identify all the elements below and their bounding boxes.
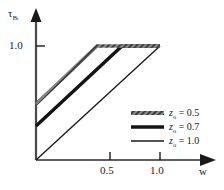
y-axis-label-subscript2: i — [17, 16, 18, 21]
y-tick-label-1-0: 1.0 — [9, 40, 23, 51]
legend-value-z0-7: = 0.7 — [179, 121, 200, 132]
plot-canvas — [0, 0, 224, 190]
series-line-z0-5 — [36, 46, 160, 104]
legend-swatch-thick-black — [131, 121, 164, 133]
legend-label-z0-5: zo = 0.5 — [169, 107, 199, 120]
y-axis-arrowhead — [31, 8, 42, 22]
legend-item-z1-0: zo = 1.0 — [131, 134, 223, 148]
legend-swatch-thin-black — [131, 135, 164, 147]
legend-value-z1-0: = 1.0 — [179, 135, 200, 146]
legend-label-z0-7: zo = 0.7 — [169, 121, 199, 134]
x-tick-label-0-5: 0.5 — [100, 165, 114, 176]
x-axis-label: w — [199, 166, 207, 177]
legend-value-z0-5: = 0.5 — [179, 107, 200, 118]
y-axis-label: τBi — [8, 8, 18, 22]
legend-symbol-z-sub: o — [173, 113, 176, 120]
legend-symbol-z-sub: o — [173, 141, 176, 148]
legend: zo = 0.5 zo = 0.7 zo = 1.0 — [131, 106, 223, 148]
tau-b-vs-w-chart: τBi 1.0 0.5 1.0 w zo = 0.5 zo = 0.7 — [0, 0, 224, 190]
legend-label-z1-0: zo = 1.0 — [169, 135, 199, 148]
legend-symbol-z-sub: o — [173, 127, 176, 134]
legend-item-z0-7: zo = 0.7 — [131, 120, 223, 134]
legend-swatch-hatched-gray — [131, 107, 164, 119]
legend-item-z0-5: zo = 0.5 — [131, 106, 223, 120]
x-tick-label-1-0: 1.0 — [150, 165, 164, 176]
